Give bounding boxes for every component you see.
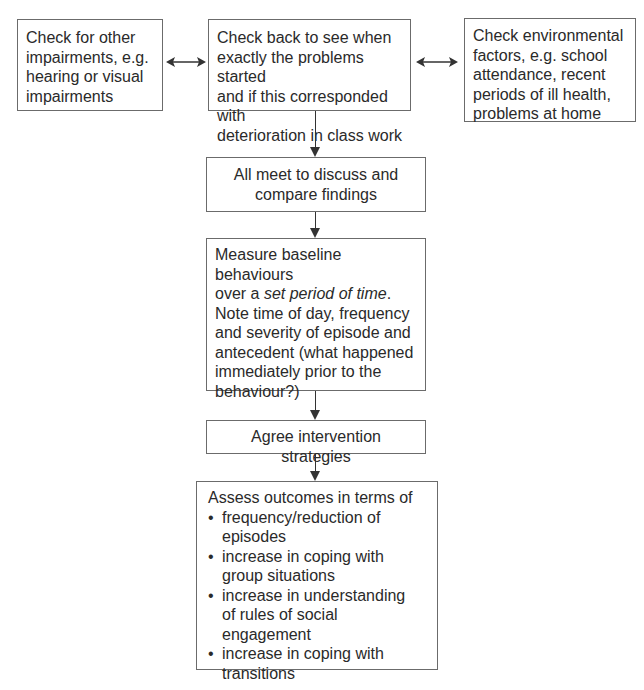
box-text-line: immediately prior to the [215, 362, 417, 382]
box-text-line: over a set period of time. [215, 284, 417, 304]
arrow-down-icon [310, 147, 320, 157]
box-text-line: Check back to see when [217, 28, 402, 48]
list-item-line: frequency/reduction of [222, 509, 380, 526]
text-fragment: . [387, 285, 391, 302]
box-all-meet: All meet to discuss and compare findings [206, 157, 426, 212]
box-text-line: problems at home [473, 104, 627, 124]
box-text-line: hearing or visual [26, 67, 154, 87]
box-text-line: impairments, e.g. [26, 48, 154, 68]
connector-line [315, 111, 317, 149]
list-item-line: episodes [222, 528, 286, 545]
bidirectional-arrow-icon [166, 56, 206, 68]
list-item-line: increase in coping with [222, 645, 384, 662]
box-text-line: behaviour?) [215, 382, 417, 402]
connector-line [315, 391, 317, 412]
arrow-down-icon [310, 228, 320, 238]
box-text-line: attendance, recent [473, 65, 627, 85]
list-item: increase in coping with group situations [208, 547, 429, 586]
list-item-line: increase in coping with [222, 548, 384, 565]
outcome-list: frequency/reduction of episodes increase… [208, 508, 429, 684]
box-text-line: antecedent (what happened [215, 343, 417, 363]
box-text-line: deterioration in class work [217, 126, 402, 146]
box-text-line: and if this corresponded with [217, 87, 402, 126]
box-text-line: Measure baseline behaviours [215, 245, 417, 284]
list-item: increase in understanding of rules of so… [208, 586, 429, 645]
box-text-line: impairments [26, 87, 154, 107]
box-text-line: Agree intervention strategies [215, 427, 417, 466]
box-other-impairments: Check for other impairments, e.g. hearin… [17, 19, 163, 111]
list-item-line: of rules of social engagement [222, 606, 338, 643]
box-text-line: compare findings [215, 185, 417, 205]
emphasis-text: set period of time [264, 285, 387, 302]
text-fragment: over a [215, 285, 264, 302]
list-item-line: group situations [222, 567, 335, 584]
box-measure-baseline: Measure baseline behaviours over a set p… [206, 238, 426, 391]
box-text-line: periods of ill health, [473, 85, 627, 105]
bidirectional-arrow-icon [416, 56, 458, 68]
box-text-line: Check for other [26, 28, 154, 48]
box-check-back: Check back to see when exactly the probl… [208, 19, 411, 111]
list-item: increase in coping with transitions [208, 644, 429, 683]
box-heading: Assess outcomes in terms of [208, 488, 429, 508]
box-text-line: factors, e.g. school [473, 46, 627, 66]
list-item: frequency/reduction of episodes [208, 508, 429, 547]
box-text-line: Note time of day, frequency [215, 304, 417, 324]
box-assess-outcomes: Assess outcomes in terms of frequency/re… [196, 481, 438, 670]
box-text-line: exactly the problems started [217, 48, 402, 87]
list-item-line: increase in understanding [222, 587, 405, 604]
arrow-down-icon [310, 471, 320, 481]
box-text-line: Check environmental [473, 26, 627, 46]
box-text-line: and severity of episode and [215, 323, 417, 343]
box-text-line: All meet to discuss and [215, 165, 417, 185]
box-environmental-factors: Check environmental factors, e.g. school… [464, 18, 636, 122]
box-agree-intervention: Agree intervention strategies [206, 420, 426, 454]
list-item-line: transitions [222, 665, 295, 682]
arrow-down-icon [310, 410, 320, 420]
